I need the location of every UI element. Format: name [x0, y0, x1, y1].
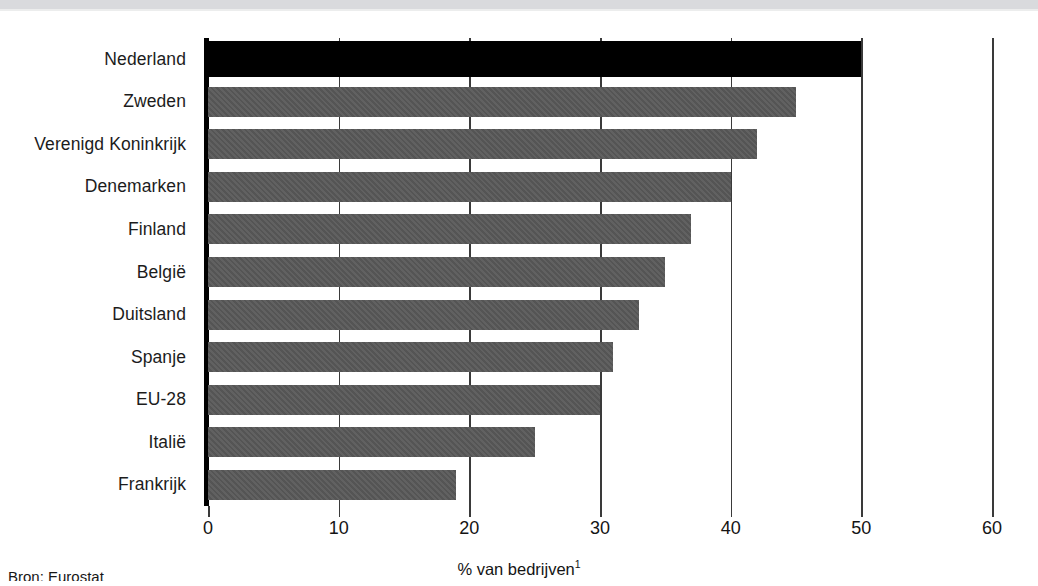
bar-spanje	[208, 342, 613, 372]
x-axis-title-text: % van bedrijven	[457, 560, 574, 578]
category-label: Duitsland	[0, 293, 196, 336]
x-tick-0	[208, 506, 210, 517]
x-tick-10	[339, 506, 341, 517]
x-tick-label: 0	[203, 518, 213, 539]
x-axis-title: % van bedrijven1	[0, 558, 1038, 579]
category-label: Nederland	[0, 38, 196, 81]
x-tick-label: 60	[982, 518, 1002, 539]
bar-eu-28	[208, 385, 600, 415]
x-tick-label: 40	[721, 518, 741, 539]
bar-rows	[208, 38, 992, 506]
bar-belgi-	[208, 257, 665, 287]
x-tick-60	[992, 506, 994, 517]
category-label: België	[0, 251, 196, 294]
x-tick-label: 50	[851, 518, 871, 539]
bar-row	[208, 166, 992, 209]
plot-area	[208, 38, 992, 506]
bar-duitsland	[208, 300, 639, 330]
x-axis-title-footnote-marker: 1	[575, 558, 581, 570]
bar-row	[208, 336, 992, 379]
bar-denemarken	[208, 172, 731, 202]
gridline-60	[992, 38, 994, 506]
category-label: Spanje	[0, 336, 196, 379]
bar-row	[208, 251, 992, 294]
category-label: Finland	[0, 208, 196, 251]
bar-row	[208, 208, 992, 251]
bar-chart: NederlandZwedenVerenigd KoninkrijkDenema…	[0, 26, 1038, 526]
category-axis-labels: NederlandZwedenVerenigd KoninkrijkDenema…	[0, 38, 196, 506]
bar-row	[208, 421, 992, 464]
bar-finland	[208, 214, 691, 244]
page-top-band-edge	[0, 9, 1038, 11]
category-label: Zweden	[0, 81, 196, 124]
x-tick-label: 30	[590, 518, 610, 539]
x-tick-label: 10	[329, 518, 349, 539]
bar-itali-	[208, 427, 535, 457]
category-label: Frankrijk	[0, 463, 196, 506]
x-tick-30	[600, 506, 602, 517]
page-top-band	[0, 0, 1038, 9]
bar-row	[208, 378, 992, 421]
bar-row	[208, 38, 992, 81]
bar-row	[208, 81, 992, 124]
category-label: Italië	[0, 421, 196, 464]
bar-zweden	[208, 87, 796, 117]
category-label: EU-28	[0, 378, 196, 421]
x-tick-20	[469, 506, 471, 517]
bar-row	[208, 293, 992, 336]
x-tick-40	[731, 506, 733, 517]
page-bottom-crop	[0, 581, 1038, 586]
x-tick-50	[861, 506, 863, 517]
category-label: Verenigd Koninkrijk	[0, 123, 196, 166]
bar-frankrijk	[208, 470, 456, 500]
x-axis-tick-labels: 0102030405060	[0, 518, 1038, 548]
chart-page: NederlandZwedenVerenigd KoninkrijkDenema…	[0, 0, 1038, 586]
bar-row	[208, 123, 992, 166]
category-label: Denemarken	[0, 166, 196, 209]
x-tick-label: 20	[459, 518, 479, 539]
bar-nederland	[208, 41, 861, 77]
x-axis-ticks	[208, 506, 992, 518]
bar-verenigd-koninkrijk	[208, 129, 757, 159]
bar-row	[208, 463, 992, 506]
